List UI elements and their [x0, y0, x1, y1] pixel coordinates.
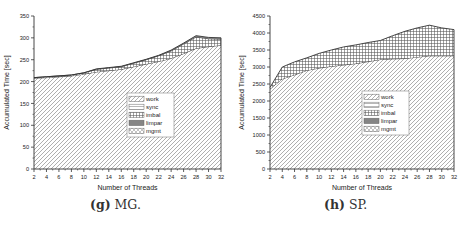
y-tick-label: 2000 — [253, 98, 265, 104]
x-tick-label: 20 — [143, 174, 149, 180]
x-tick-label: 18 — [131, 174, 137, 180]
legend-label: limpar — [146, 120, 162, 126]
figure-caption-sp: (h) SP. — [324, 197, 367, 212]
legend-label: sync — [381, 102, 393, 108]
x-tick-label: 32 — [451, 174, 457, 180]
y-tick-label: 1000 — [253, 132, 265, 138]
caption-label: (g) — [90, 197, 111, 212]
legend: worksyncimballimparmgmt — [127, 93, 174, 137]
x-tick-label: 6 — [57, 174, 60, 180]
x-tick-label: 12 — [93, 174, 99, 180]
y-axis-label: Accumulated Time [sec] — [238, 55, 246, 129]
y-tick-label: 0 — [26, 166, 29, 172]
y-tick-label: 4000 — [253, 30, 265, 36]
y-tick-label: 3000 — [253, 64, 265, 70]
y-tick-label: 2500 — [253, 81, 265, 87]
x-tick-label: 4 — [45, 174, 48, 180]
y-tick-label: 200 — [20, 79, 29, 85]
sp-stacked-area-chart: 0500100015002000250030003500400045002468… — [235, 0, 467, 225]
x-axis-label: Number of Threads — [332, 184, 393, 191]
x-tick-label: 2 — [32, 174, 35, 180]
legend-label: mgmt — [381, 126, 396, 132]
legend-swatch-mgmt — [364, 126, 379, 131]
x-tick-label: 26 — [180, 174, 186, 180]
legend-item-limpar: limpar — [129, 120, 162, 126]
legend-item-sync: sync — [364, 102, 393, 108]
y-tick-label: 300 — [20, 35, 29, 41]
x-tick-label: 4 — [281, 174, 284, 180]
legend-item-sync: sync — [129, 104, 158, 110]
chart-panel-mg: 0501001502002503003502468101214161820222… — [0, 0, 235, 225]
chart-panel-sp: 0500100015002000250030003500400045002468… — [235, 0, 467, 225]
x-tick-label: 16 — [118, 174, 124, 180]
y-axis-label: Accumulated Time [sec] — [3, 55, 11, 129]
y-tick-label: 0 — [262, 166, 265, 172]
legend-label: mgmt — [146, 128, 161, 134]
x-axis-label: Number of Threads — [97, 184, 158, 191]
x-tick-label: 30 — [439, 174, 445, 180]
x-tick-label: 14 — [340, 174, 346, 180]
x-tick-label: 8 — [305, 174, 308, 180]
x-tick-label: 22 — [390, 174, 396, 180]
caption-text: MG. — [115, 197, 141, 212]
x-tick-label: 18 — [365, 174, 371, 180]
legend-item-mgmt: mgmt — [129, 128, 161, 134]
legend-swatch-imbal — [129, 112, 144, 117]
legend-swatch-limpar — [129, 120, 144, 125]
legend: worksyncimballimparmgmt — [362, 91, 409, 135]
x-tick-label: 26 — [414, 174, 420, 180]
y-tick-label: 500 — [256, 149, 265, 155]
legend-label: sync — [146, 104, 158, 110]
legend-label: work — [145, 96, 160, 102]
x-tick-label: 32 — [218, 174, 224, 180]
legend-swatch-work — [129, 96, 144, 101]
legend-swatch-mgmt — [129, 128, 144, 133]
x-tick-label: 8 — [70, 174, 73, 180]
legend-label: imbal — [146, 112, 160, 118]
y-tick-label: 1500 — [253, 115, 265, 121]
x-tick-label: 12 — [328, 174, 334, 180]
figure-caption-mg: (g) MG. — [90, 197, 141, 212]
x-tick-label: 30 — [205, 174, 211, 180]
y-tick-label: 100 — [20, 122, 29, 128]
y-tick-label: 50 — [23, 144, 29, 150]
mg-stacked-area-chart: 0501001502002503003502468101214161820222… — [0, 0, 235, 225]
y-tick-label: 250 — [20, 57, 29, 63]
x-tick-label: 10 — [316, 174, 322, 180]
caption-label: (h) — [324, 197, 345, 212]
legend-swatch-sync — [364, 102, 379, 107]
y-tick-label: 4500 — [253, 13, 265, 19]
legend-label: work — [380, 94, 395, 100]
x-tick-label: 6 — [293, 174, 296, 180]
x-tick-label: 22 — [156, 174, 162, 180]
legend-label: imbal — [381, 110, 395, 116]
y-tick-label: 350 — [20, 13, 29, 19]
legend-swatch-work — [364, 94, 379, 99]
caption-text: SP. — [349, 197, 367, 212]
x-tick-label: 24 — [402, 174, 408, 180]
x-tick-label: 20 — [377, 174, 383, 180]
x-tick-label: 14 — [106, 174, 112, 180]
legend-swatch-sync — [129, 104, 144, 109]
x-tick-label: 28 — [426, 174, 432, 180]
legend-label: limpar — [381, 118, 397, 124]
y-tick-label: 3500 — [253, 47, 265, 53]
legend-swatch-limpar — [364, 118, 379, 123]
x-tick-label: 10 — [81, 174, 87, 180]
legend-item-limpar: limpar — [364, 118, 397, 124]
x-tick-label: 28 — [193, 174, 199, 180]
legend-swatch-imbal — [364, 110, 379, 115]
legend-item-mgmt: mgmt — [364, 126, 396, 132]
x-tick-label: 16 — [353, 174, 359, 180]
x-tick-label: 2 — [268, 174, 271, 180]
x-tick-label: 24 — [168, 174, 174, 180]
y-tick-label: 150 — [20, 101, 29, 107]
